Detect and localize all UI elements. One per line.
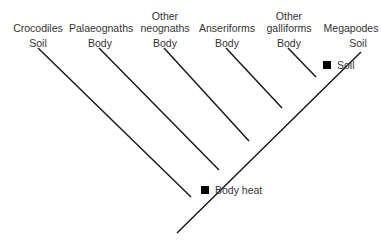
taxon-megapodes: Megapodes Soil: [322, 10, 380, 49]
marker-label-soil: Soil: [337, 59, 355, 71]
taxon-palaeognaths: Palaeognaths Body: [69, 10, 131, 49]
branch-crocodiles: [38, 48, 191, 197]
branch-palaeognaths: [99, 48, 219, 170]
taxon-other-neognaths: Other neognaths Body: [135, 10, 195, 49]
soil-marker: [323, 61, 331, 69]
body-heat-marker: [201, 186, 209, 194]
main-trunk: [177, 52, 361, 233]
taxon-crocodiles: Crocodiles Soil: [8, 10, 68, 49]
branch-anseriforms: [226, 48, 282, 108]
taxon-other-galliforms: Other galliforms Body: [262, 10, 316, 49]
taxon-anseriforms: Anseriforms Body: [196, 10, 258, 49]
marker-label-body-heat: Body heat: [215, 184, 262, 196]
branch-other-galliforms: [288, 48, 316, 77]
